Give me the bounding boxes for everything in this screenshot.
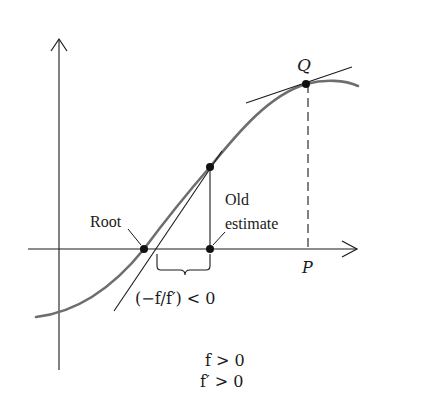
root-leader-line bbox=[128, 229, 141, 245]
function-curve bbox=[36, 81, 358, 317]
step-brace bbox=[157, 254, 210, 275]
old-estimate-point bbox=[206, 245, 214, 253]
newton-method-diagram: Q P Root Old estimate (−f/f′) < 0 f > 0 … bbox=[0, 0, 426, 408]
condition-f-positive: f > 0 bbox=[205, 351, 245, 370]
q-point bbox=[302, 80, 310, 88]
root-label: Root bbox=[90, 213, 122, 230]
old-estimate-label-line2: estimate bbox=[225, 215, 278, 232]
condition-fprime-positive: f′ > 0 bbox=[200, 372, 243, 391]
curve-point bbox=[206, 163, 214, 171]
old-estimate-label-line1: Old bbox=[225, 191, 249, 208]
p-label: P bbox=[301, 258, 313, 277]
old-estimate-leader-line bbox=[213, 232, 225, 245]
step-label: (−f/f′) < 0 bbox=[135, 289, 216, 308]
root-point bbox=[140, 245, 148, 253]
q-label: Q bbox=[297, 55, 311, 75]
